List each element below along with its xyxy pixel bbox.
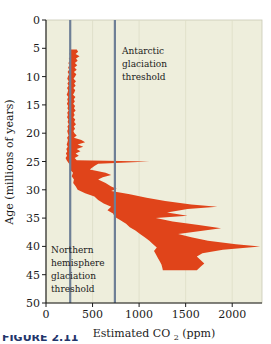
y-tick-label: 0 [33, 14, 40, 27]
figure-caption: FIGURE 2.11 [2, 335, 79, 344]
x-axis-ticks: 0500100015002000 [43, 303, 247, 321]
y-tick-label: 10 [26, 71, 40, 84]
x-tick-label: 1000 [125, 308, 153, 321]
annotation-antarctic-line3: threshold [122, 72, 166, 82]
co2-figure: 0500100015002000 05101520253035404550 Es… [0, 0, 271, 344]
y-axis-ticks: 05101520253035404550 [26, 14, 46, 310]
annotation-antarctic-line2: glaciation [122, 59, 167, 69]
y-tick-label: 30 [26, 184, 40, 197]
y-tick-label: 50 [26, 297, 40, 310]
figure-caption-strip: FIGURE 2.11 [0, 335, 271, 344]
y-tick-label: 20 [26, 127, 40, 140]
annotation-antarctic-threshold: Antarctic glaciation threshold [121, 46, 167, 82]
x-tick-label: 1500 [172, 308, 200, 321]
co2-age-chart: 0500100015002000 05101520253035404550 Es… [0, 0, 271, 344]
y-axis-title: Age (millions of years) [3, 99, 16, 225]
annotation-northern-line3: glaciation [51, 271, 96, 281]
x-tick-label: 500 [82, 308, 103, 321]
y-tick-label: 45 [26, 269, 40, 282]
y-tick-label: 40 [26, 240, 40, 253]
x-tick-label: 0 [43, 308, 50, 321]
y-tick-label: 15 [26, 99, 40, 112]
y-tick-label: 35 [26, 212, 40, 225]
annotation-northern-line2: hemisphere [51, 258, 105, 268]
annotation-antarctic-line1: Antarctic [121, 46, 164, 56]
y-tick-label: 25 [26, 156, 40, 169]
x-tick-label: 2000 [218, 308, 246, 321]
annotation-northern-line4: threshold [51, 284, 95, 294]
annotation-northern-line1: Northern [51, 245, 94, 255]
y-tick-label: 5 [33, 42, 40, 55]
